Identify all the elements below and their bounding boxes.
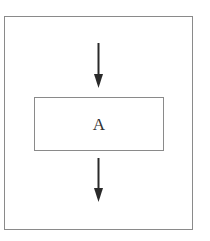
process-node-label: A [93,116,105,133]
exit-arrow-icon [94,158,103,202]
process-node-a: A [34,97,164,151]
entry-arrow-icon [94,43,103,88]
